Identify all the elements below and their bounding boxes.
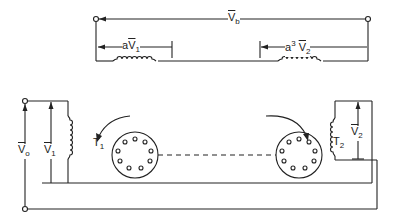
rotation-arrowhead-t2 (303, 133, 309, 141)
rotation-arrow-t1 (99, 116, 130, 136)
v2-arrowhead (356, 102, 361, 109)
rotor-2-slots (280, 137, 317, 170)
rotor-1 (112, 132, 158, 178)
terminal-top-left (94, 17, 99, 22)
stator-coil-1 (68, 116, 73, 159)
a3v2-arrowhead (261, 45, 268, 50)
label-v1: V1 (44, 144, 56, 159)
series-coil-2 (278, 57, 321, 62)
rotor-2 (276, 132, 322, 178)
vb-arrowhead (99, 17, 106, 22)
label-v0: Vo (18, 144, 30, 159)
label-av1: aV1 (122, 40, 140, 55)
series-coil-1 (113, 57, 156, 62)
label-t2: T2 (333, 136, 344, 151)
terminal-left-top (23, 99, 28, 104)
label-t1: T1 (93, 137, 104, 152)
v0-arrowhead (23, 104, 28, 111)
rotor-1-slots (116, 137, 153, 170)
label-a3v2: a3 V2 (285, 38, 310, 57)
label-v2: V2 (351, 126, 363, 141)
terminal-left-bottom (23, 207, 28, 212)
circuit-diagram (0, 0, 417, 221)
av1-arrowhead (98, 45, 105, 50)
v1-arrowhead (49, 102, 54, 109)
label-vb: Vb (228, 12, 240, 27)
terminal-top-right (366, 17, 371, 22)
